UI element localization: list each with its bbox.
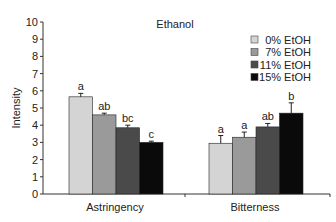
bar — [280, 113, 304, 194]
bar — [140, 142, 164, 194]
y-tick-label: 10 — [26, 16, 38, 28]
y-tick-label: 1 — [32, 171, 38, 183]
significance-letter: a — [78, 80, 85, 92]
bar — [69, 97, 93, 194]
bar — [256, 127, 280, 194]
y-tick-label: 7 — [32, 68, 38, 80]
y-tick-label: 8 — [32, 50, 38, 62]
legend-label: 0% EtOH — [265, 34, 311, 46]
legend-swatch — [251, 61, 258, 68]
bar — [233, 137, 257, 194]
significance-letter: ab — [262, 110, 274, 122]
bar-chart: 012345678910IntensityEthanolaabbccAstrin… — [0, 0, 336, 222]
significance-letter: bc — [122, 112, 134, 124]
chart-title: Ethanol — [156, 18, 193, 30]
legend-swatch — [251, 49, 258, 56]
y-tick-label: 6 — [32, 85, 38, 97]
legend-label: 11% EtOH — [260, 59, 311, 71]
significance-letter: a — [241, 119, 248, 131]
significance-letter: b — [288, 90, 294, 102]
y-tick-label: 4 — [32, 119, 38, 131]
significance-letter: ab — [98, 100, 110, 112]
legend-swatch — [251, 36, 258, 43]
bar — [209, 143, 233, 194]
bar — [116, 128, 140, 194]
y-tick-label: 3 — [32, 136, 38, 148]
legend-label: 15% EtOH — [259, 71, 311, 83]
legend-label: 7% EtOH — [265, 46, 311, 58]
significance-letter: c — [149, 128, 155, 140]
y-axis-label: Intensity — [10, 87, 22, 128]
y-tick-label: 9 — [32, 33, 38, 45]
y-tick-label: 0 — [32, 188, 38, 200]
x-tick-label: Astringency — [86, 201, 144, 213]
significance-letter: a — [218, 123, 225, 135]
bar — [93, 115, 117, 194]
x-tick-label: Bitterness — [231, 201, 280, 213]
y-tick-label: 2 — [32, 154, 38, 166]
legend-swatch — [251, 74, 258, 81]
y-tick-label: 5 — [32, 102, 38, 114]
